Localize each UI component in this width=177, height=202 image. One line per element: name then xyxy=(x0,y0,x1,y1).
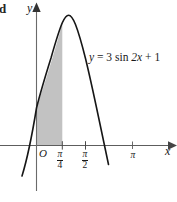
fraction-pi-over-2: π 2 xyxy=(82,150,89,170)
equation-function: sin xyxy=(115,51,128,63)
tick-label-pi-over-4: π 4 xyxy=(52,150,68,170)
equation-argument: 2x xyxy=(128,51,142,63)
y-axis-arrowhead xyxy=(32,3,40,13)
y-axis-label: y xyxy=(27,2,32,14)
plot-canvas xyxy=(0,0,177,202)
fraction-denominator: 2 xyxy=(82,161,89,171)
tick-label-pi: π xyxy=(126,151,140,161)
shaded-region xyxy=(37,23,63,146)
x-axis-label: x xyxy=(165,145,170,157)
equation-annotation: y = 3 sin 2x + 1 xyxy=(89,52,160,64)
fraction-pi-over-4: π 4 xyxy=(57,150,64,170)
tick-label-pi-over-2: π 2 xyxy=(77,150,93,170)
fraction-denominator: 4 xyxy=(57,161,64,171)
origin-label: O xyxy=(39,148,47,159)
equation-operator: = 3 xyxy=(94,51,115,63)
margin-glyph: d xyxy=(0,2,6,15)
graph-figure: d y x O y = 3 sin 2x + 1 π 4 π 2 π xyxy=(0,0,177,202)
equation-constant: + 1 xyxy=(142,51,160,63)
